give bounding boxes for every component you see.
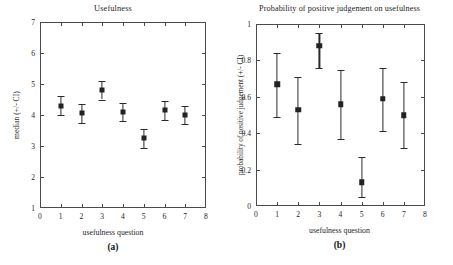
x-axis-tick (404, 202, 405, 206)
error-bar-cap-lower (274, 117, 281, 118)
y-axis-tick-label: 0.6 (224, 92, 251, 101)
error-bar-cap-upper (99, 81, 106, 82)
x-axis-tick-top (404, 24, 405, 28)
error-bar-cap-upper (400, 82, 407, 83)
x-axis-tick-top (82, 22, 83, 26)
error-bar-cap-lower (295, 144, 302, 145)
error-bar-cap-lower (161, 120, 168, 121)
error-bar-cap-lower (316, 68, 323, 69)
y-axis-tick-label: 0.2 (224, 165, 251, 174)
x-axis-tick-top (102, 22, 103, 26)
x-axis-tick (165, 204, 166, 208)
y-axis-tick-label: 4 (8, 111, 35, 120)
x-axis-tick (319, 202, 320, 206)
data-point-marker (121, 109, 126, 114)
data-point-marker (338, 101, 344, 107)
y-axis-tick-label: 0.8 (224, 56, 251, 65)
panel-a: Usefulness median (+/- CI) usefulness qu… (0, 0, 226, 265)
y-axis-tick-label: 7 (8, 18, 35, 27)
y-axis-tick-label: 2 (8, 173, 35, 182)
error-bar-cap-lower (57, 115, 64, 116)
y-axis-tick-right (421, 170, 425, 171)
error-bar (319, 33, 320, 68)
error-bar-cap-upper (182, 106, 189, 107)
x-axis-tick (102, 204, 103, 208)
error-bar-cap-upper (274, 53, 281, 54)
y-axis-tick-label: 1 (8, 204, 35, 213)
x-axis-tick-top (383, 24, 384, 28)
y-axis-tick-right (202, 84, 206, 85)
error-bar-cap-upper (337, 70, 344, 71)
error-bar-cap-upper (316, 33, 323, 34)
data-point-marker (100, 88, 105, 93)
x-axis-tick-label: 0 (254, 210, 258, 219)
x-axis-tick-label: 5 (142, 212, 146, 221)
x-axis-tick-top (362, 24, 363, 28)
x-axis-tick-label: 7 (402, 210, 406, 219)
x-axis-tick-top (185, 22, 186, 26)
x-axis-tick-top (144, 22, 145, 26)
x-axis-tick-top (61, 22, 62, 26)
data-point-marker (183, 113, 188, 118)
y-axis-tick-label: 1 (224, 20, 251, 29)
x-axis-tick (298, 202, 299, 206)
error-bar-cap-upper (379, 68, 386, 69)
x-axis-tick-label: 6 (163, 212, 167, 221)
data-point-marker (296, 107, 302, 113)
error-bar-cap-lower (337, 139, 344, 140)
x-axis-tick-label: 3 (317, 210, 321, 219)
x-axis-tick-label: 2 (80, 212, 84, 221)
y-axis-tick (40, 177, 44, 178)
y-axis-tick-right (202, 115, 206, 116)
error-bar-cap-upper (57, 96, 64, 97)
error-bar-cap-lower (99, 100, 106, 101)
x-axis-tick-label: 2 (296, 210, 300, 219)
y-axis-tick (256, 170, 260, 171)
error-bar-cap-lower (358, 197, 365, 198)
figure-container: Usefulness median (+/- CI) usefulness qu… (0, 0, 453, 265)
y-axis-tick-label: 6 (8, 49, 35, 58)
y-axis-tick-right (202, 146, 206, 147)
y-axis-tick-label: 3 (8, 142, 35, 151)
y-axis-tick (256, 133, 260, 134)
y-axis-tick (256, 60, 260, 61)
panel-a-x-axis-label: usefulness question (0, 228, 226, 237)
data-point-marker (141, 136, 146, 141)
data-point-marker (58, 103, 63, 108)
x-axis-tick-label: 5 (360, 210, 364, 219)
error-bar-cap-upper (140, 129, 147, 130)
y-axis-tick (40, 115, 44, 116)
data-point-marker (79, 111, 84, 116)
x-axis-tick (123, 204, 124, 208)
x-axis-tick (362, 202, 363, 206)
error-bar-cap-lower (400, 148, 407, 149)
panel-a-figure-letter: (a) (0, 242, 226, 252)
y-axis-tick-right (421, 97, 425, 98)
x-axis-tick-label: 6 (381, 210, 385, 219)
error-bar-cap-lower (78, 123, 85, 124)
x-axis-tick (185, 204, 186, 208)
x-axis-tick (277, 202, 278, 206)
panel-b-x-axis-label: usefulness question (226, 226, 453, 235)
error-bar-cap-upper (120, 103, 127, 104)
y-axis-tick (256, 97, 260, 98)
y-axis-tick-right (202, 53, 206, 54)
panel-b: Probability of positive judgement on use… (226, 0, 453, 265)
error-bar-cap-upper (358, 157, 365, 158)
x-axis-tick (341, 202, 342, 206)
x-axis-tick-top (319, 24, 320, 28)
x-axis-tick (61, 204, 62, 208)
y-axis-tick-right (421, 133, 425, 134)
data-point-marker (401, 112, 407, 118)
x-axis-tick-label: 1 (59, 212, 63, 221)
x-axis-tick (383, 202, 384, 206)
y-axis-tick (40, 146, 44, 147)
error-bar-cap-lower (120, 121, 127, 122)
y-axis-tick-label: 0 (224, 202, 251, 211)
panel-a-title: Usefulness (0, 4, 226, 13)
error-bar-cap-upper (295, 77, 302, 78)
x-axis-tick-label: 8 (423, 210, 427, 219)
x-axis-tick-top (123, 22, 124, 26)
data-point-marker (359, 180, 365, 186)
error-bar-cap-upper (161, 101, 168, 102)
